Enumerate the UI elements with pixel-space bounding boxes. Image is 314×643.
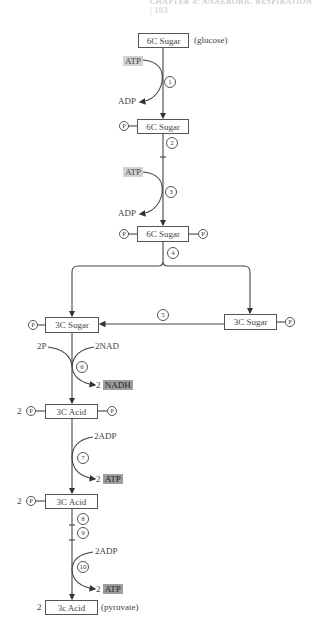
adp-output-3: ADP [118, 208, 136, 219]
nad-input: 2NAD [95, 341, 119, 352]
atp-input-1: ATP [123, 56, 143, 66]
atp-count-7: 2 [96, 474, 101, 484]
phosphate-icon: P [107, 406, 117, 416]
six-c-sugar-phosphate-node: 6C Sugar [137, 119, 189, 134]
adp-input-10: 2ADP [95, 546, 118, 557]
step-7-marker: 7 [77, 452, 89, 464]
atp-input-3: ATP [123, 167, 143, 177]
step-9-marker: 9 [77, 527, 89, 539]
phosphate-icon: P [198, 229, 208, 239]
step-6-marker: 6 [76, 361, 88, 373]
atp-count-10: 2 [96, 584, 101, 594]
phosphate-icon: P [119, 229, 129, 239]
nadh-count: 2 [96, 380, 101, 390]
nadh-output: NADH [103, 380, 133, 390]
adp-output-1: ADP [118, 96, 136, 107]
three-c-sugar-right-node: 3C Sugar [224, 314, 277, 330]
phosphate-icon: P [26, 496, 36, 506]
six-c-sugar-bisphosphate-node: 6C Sugar [137, 226, 189, 242]
acid2-count: 2 [17, 496, 22, 507]
phosphate-input: 2P [37, 341, 47, 352]
step-4-marker: 4 [167, 247, 179, 259]
adp-input-7: 2ADP [94, 431, 117, 442]
phosphate-icon: P [285, 317, 295, 327]
step-5-marker: 5 [157, 309, 169, 321]
step-8-marker: 8 [77, 513, 89, 525]
pyruvate-note: (pyruvate) [101, 602, 138, 613]
three-c-acid-phosphate-node: 3C Acid [45, 494, 98, 509]
step-2-marker: 2 [166, 137, 178, 149]
three-c-acid-bisphosphate-node: 3C Acid [45, 404, 98, 419]
phosphate-icon: P [26, 406, 36, 416]
step-10-marker: 10 [77, 561, 89, 573]
atp-output-10: ATP [103, 584, 123, 594]
step-3-marker: 3 [165, 186, 177, 198]
phosphate-icon: P [28, 320, 38, 330]
pyruvate-count: 2 [37, 602, 42, 613]
atp-output-7: ATP [103, 474, 123, 484]
phosphate-icon: P [119, 121, 129, 131]
glucose-node: 6C Sugar [138, 33, 189, 48]
acid1-count: 2 [17, 406, 22, 417]
step-1-marker: 1 [164, 76, 176, 88]
pyruvate-node: 3c Acid [45, 600, 98, 615]
three-c-sugar-left-node: 3C Sugar [45, 317, 99, 333]
glucose-note: (glucose) [194, 35, 228, 46]
